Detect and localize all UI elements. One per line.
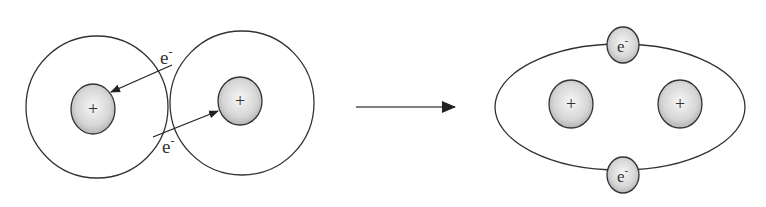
nucleus-left-label: + (88, 99, 98, 119)
electron-arrow-to-right (153, 111, 218, 137)
molecule-nucleus-right-label: + (675, 94, 685, 114)
electron-label-bottom: e- (162, 134, 174, 157)
electron-label-top: e- (160, 45, 172, 68)
molecule-nucleus-left-label: + (566, 94, 576, 114)
atom-right: + (170, 31, 314, 175)
bond-diagram: + + e- e- + + e- e- (0, 0, 766, 207)
nucleus-right-label: + (235, 91, 245, 111)
atom-left: + (26, 36, 168, 178)
electron-arrow-to-left (111, 65, 172, 92)
molecule: + + e- e- (495, 27, 745, 193)
